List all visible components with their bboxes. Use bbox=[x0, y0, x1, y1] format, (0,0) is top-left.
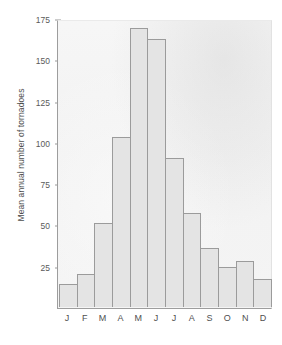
bar bbox=[130, 28, 149, 307]
bar bbox=[200, 248, 219, 307]
x-axis-tick-label: A bbox=[111, 313, 129, 323]
x-axis-tick-label: J bbox=[58, 313, 76, 323]
x-axis-tick-label: S bbox=[201, 313, 219, 323]
y-axis-tick-label: 100 bbox=[36, 139, 50, 149]
x-axis-tick-label: F bbox=[76, 313, 94, 323]
bar bbox=[165, 158, 184, 307]
bar bbox=[183, 213, 202, 307]
x-axis-tick-label: M bbox=[129, 313, 147, 323]
bar bbox=[77, 274, 96, 307]
tornado-bar-chart-figure: Mean annual number of tornadoes 25507510… bbox=[0, 0, 282, 345]
bar bbox=[94, 223, 113, 307]
x-axis-tick-label: D bbox=[254, 313, 272, 323]
x-axis-tick-label: M bbox=[94, 313, 112, 323]
y-axis-tick-label: 125 bbox=[36, 98, 50, 108]
bar bbox=[147, 39, 166, 307]
x-axis-tick-label: J bbox=[165, 313, 183, 323]
y-axis-tick-label: 25 bbox=[41, 263, 50, 273]
bar-series bbox=[59, 21, 271, 307]
y-axis-tick-labels: 255075100125150175 bbox=[26, 0, 50, 345]
x-axis-tick-label: O bbox=[218, 313, 236, 323]
bar bbox=[218, 267, 237, 307]
y-axis-tick-label: 50 bbox=[41, 221, 50, 231]
bar bbox=[236, 261, 255, 307]
x-axis-tick-labels: JFMAMJJASOND bbox=[58, 313, 272, 323]
bar bbox=[59, 284, 78, 307]
y-axis-tick-label: 175 bbox=[36, 15, 50, 25]
x-axis-tick-label: J bbox=[147, 313, 165, 323]
bar bbox=[253, 279, 272, 307]
bar bbox=[112, 137, 131, 307]
plot-area bbox=[57, 20, 272, 309]
y-axis-title-text: Mean annual number of tornadoes bbox=[16, 88, 26, 221]
x-axis-tick-label: A bbox=[183, 313, 201, 323]
x-axis-tick-label: N bbox=[236, 313, 254, 323]
y-axis-tick-label: 150 bbox=[36, 56, 50, 66]
y-axis-tick-label: 75 bbox=[41, 180, 50, 190]
